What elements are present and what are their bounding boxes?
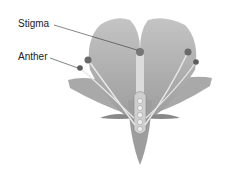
anther-label: Anther xyxy=(18,51,47,62)
ovule xyxy=(137,105,142,110)
anther-leader-line xyxy=(50,58,78,68)
stigma-icon xyxy=(136,48,144,56)
ovule xyxy=(137,98,142,103)
stigma-label: Stigma xyxy=(18,18,49,29)
anther-icon xyxy=(185,49,192,56)
ovule xyxy=(137,119,142,124)
ovule xyxy=(137,126,142,131)
anther-icon xyxy=(193,59,199,65)
anther-icon xyxy=(77,65,83,71)
ovule xyxy=(137,112,142,117)
anther-icon xyxy=(85,57,92,64)
